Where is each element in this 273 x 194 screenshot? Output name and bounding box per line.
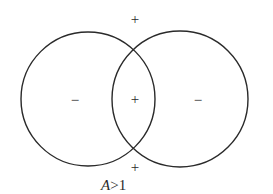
sign-top: + <box>131 11 139 27</box>
caption: A>1 <box>100 177 126 193</box>
sign-left: − <box>71 92 79 108</box>
sign-right: − <box>194 92 202 108</box>
sign-center: + <box>131 91 139 107</box>
sign-bottom: + <box>131 159 139 175</box>
venn-diagram: + − + − + A>1 <box>0 0 273 194</box>
caption-relation: >1 <box>110 177 126 193</box>
